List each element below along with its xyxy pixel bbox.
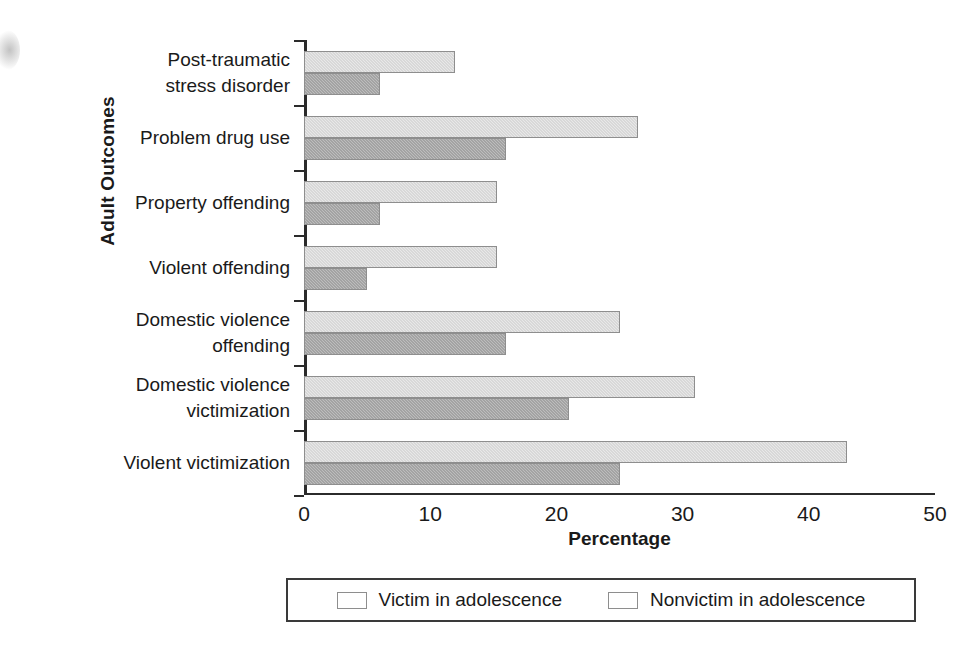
category-label: Problem drug use [30,125,290,151]
legend-label-nonvictim: Nonvictim in adolescence [650,589,865,611]
bar-nonvictim [304,73,380,95]
category-label: Post-traumatic stress disorder [30,47,290,99]
x-tick-label: 0 [274,502,334,526]
plot-area: Post-traumatic stress disorderProblem dr… [304,40,935,495]
category-label: Property offending [30,190,290,216]
bar-group: Violent offending [304,235,935,300]
chart-legend: Victim in adolescence Nonvictim in adole… [286,578,916,622]
bar-nonvictim [304,268,367,290]
x-tick-label: 10 [400,502,460,526]
x-tick-label: 50 [905,502,965,526]
bar-group: Post-traumatic stress disorder [304,40,935,105]
bar-nonvictim [304,333,506,355]
category-label: Violent offending [30,255,290,281]
y-axis-title: Adult Outcomes [97,71,119,271]
bar-group: Property offending [304,170,935,235]
bar-victim [304,51,455,73]
bar-group: Domestic violence offending [304,300,935,365]
y-axis-tick [294,40,304,42]
bar-nonvictim [304,463,620,485]
legend-swatch-victim [337,592,367,609]
bar-group: Domestic violence victimization [304,365,935,430]
y-axis-tick [294,105,304,107]
bar-victim [304,181,497,203]
y-axis-tick [294,235,304,237]
y-axis-tick [294,170,304,172]
y-axis-tick [294,300,304,302]
bar-nonvictim [304,398,569,420]
x-axis-title: Percentage [304,528,935,550]
y-axis-tick [294,365,304,367]
bar-group: Problem drug use [304,105,935,170]
y-axis-tick [294,495,304,497]
legend-label-victim: Victim in adolescence [379,589,562,611]
bar-nonvictim [304,203,380,225]
legend-item: Victim in adolescence [337,589,562,611]
bar-victim [304,246,497,268]
bar-victim [304,311,620,333]
x-tick-label: 20 [526,502,586,526]
bar-victim [304,376,695,398]
bar-victim [304,441,847,463]
scan-artifact [0,30,20,70]
x-tick-label: 40 [779,502,839,526]
chart-figure: Adult Outcomes Post-traumatic stress dis… [0,0,980,658]
bar-victim [304,116,638,138]
x-tick-label: 30 [653,502,713,526]
category-label: Domestic violence offending [30,307,290,359]
y-axis-tick [294,430,304,432]
category-label: Violent victimization [30,450,290,476]
legend-item: Nonvictim in adolescence [608,589,865,611]
bar-nonvictim [304,138,506,160]
category-label: Domestic violence victimization [30,372,290,424]
legend-swatch-nonvictim [608,592,638,609]
bar-group: Violent victimization [304,430,935,495]
